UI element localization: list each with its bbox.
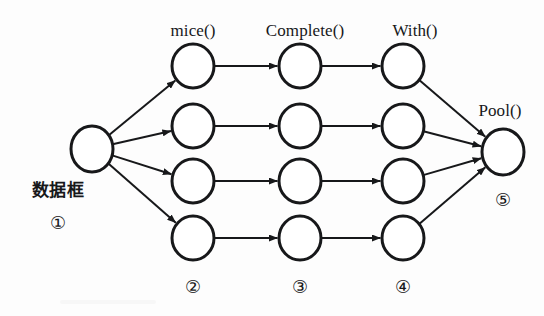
step-marker-2: ② xyxy=(185,278,201,296)
stage-label-dataframe: 数据框 xyxy=(32,182,85,199)
step-marker-5: ⑤ xyxy=(495,191,511,209)
node-c4r1[interactable] xyxy=(382,44,424,88)
node-c2r1[interactable] xyxy=(172,44,214,88)
edge-layer xyxy=(108,66,485,238)
node-c4r4[interactable] xyxy=(382,216,424,260)
stage-label-pool: Pool() xyxy=(478,102,521,119)
node-c4r3[interactable] xyxy=(382,159,424,203)
node-c3r2[interactable] xyxy=(279,104,321,148)
edge-c4r4-to-pool xyxy=(419,167,485,224)
node-c2r3[interactable] xyxy=(172,159,214,203)
step-marker-1: ① xyxy=(50,214,66,232)
node-c2r4[interactable] xyxy=(172,216,214,260)
node-c2r2[interactable] xyxy=(172,104,214,148)
edge-source-to-c2r3 xyxy=(112,155,171,174)
node-pool[interactable] xyxy=(482,129,524,175)
stage-label-mice: mice() xyxy=(171,22,216,39)
stage-label-complete: Complete() xyxy=(266,22,344,39)
node-c3r1[interactable] xyxy=(279,44,321,88)
edge-source-to-c2r1 xyxy=(109,81,176,136)
node-c3r3[interactable] xyxy=(279,159,321,203)
edge-c4r1-to-pool xyxy=(419,80,485,137)
flow-diagram-graphic xyxy=(0,0,544,316)
node-c4r2[interactable] xyxy=(382,104,424,148)
node-source[interactable] xyxy=(71,126,113,172)
edge-c4r2-to-pool xyxy=(423,131,481,146)
edge-c4r3-to-pool xyxy=(423,158,481,175)
step-marker-3: ③ xyxy=(292,278,308,296)
node-layer xyxy=(71,44,524,260)
stage-label-with: With() xyxy=(392,22,437,39)
diagram-canvas: mice() Complete() With() Pool() 数据框 ① ② … xyxy=(0,0,544,316)
step-marker-4: ④ xyxy=(395,278,411,296)
node-c3r4[interactable] xyxy=(279,216,321,260)
edge-source-to-c2r2 xyxy=(113,131,171,144)
